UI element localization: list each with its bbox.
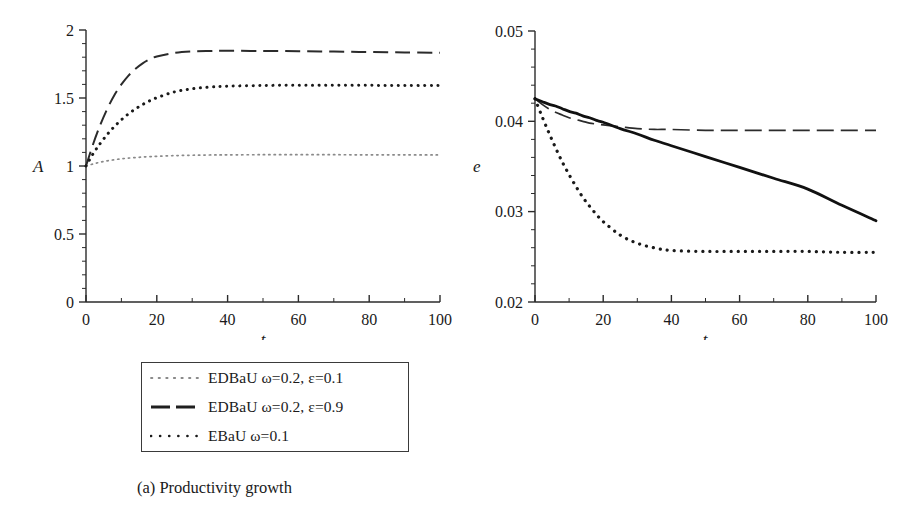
- x-axis-label: t: [261, 330, 267, 340]
- y-tick-label: 2: [66, 22, 74, 39]
- y-tick-label: 0.04: [495, 113, 523, 130]
- y-tick-label: 1: [66, 158, 74, 175]
- x-tick-label: 80: [361, 311, 377, 328]
- legend-item: EDBaU ω=0.2, ε=0.9: [142, 392, 408, 421]
- x-tick-label: 40: [663, 311, 679, 328]
- y-tick-label: 1.5: [54, 90, 74, 107]
- legend-label: EDBaU ω=0.2, ε=0.9: [208, 398, 343, 416]
- legend-label: EBaU ω=0.1: [208, 427, 289, 445]
- series-group: [86, 51, 440, 166]
- legend-productivity-growth: EDBaU ω=0.2, ε=0.1 EDBaU ω=0.2, ε=0.9 EB…: [141, 362, 409, 452]
- chart-productivity-growth: 2 1.5 1 0.5 0 0 20 40 60 80 100 A t: [0, 0, 457, 340]
- y-tick-label: 0.05: [495, 23, 523, 40]
- panel-caption-a: (a) Productivity growth: [137, 478, 292, 498]
- x-tick-label: 100: [864, 311, 888, 328]
- x-tick-label: 100: [428, 311, 452, 328]
- legend-swatch-dashed: [150, 401, 202, 413]
- legend-label: EDBaU ω=0.2, ε=0.1: [208, 369, 343, 387]
- y-tick-label: 0.02: [495, 294, 523, 311]
- y-tick-label: 0.03: [495, 203, 523, 220]
- y-axis-major-ticks: [528, 31, 535, 302]
- series-line-ebau: [535, 99, 876, 221]
- series-line-ebau: [86, 85, 440, 166]
- y-axis-label: A: [32, 157, 44, 176]
- x-tick-label: 60: [732, 311, 748, 328]
- legend-swatch-dotted-bold: [150, 430, 202, 442]
- x-tick-label: 40: [220, 311, 236, 328]
- series-line-edbau-eps09: [535, 99, 876, 131]
- panel-productivity-growth: 2 1.5 1 0.5 0 0 20 40 60 80 100 A t EDBa…: [0, 0, 457, 532]
- panel-emission-intensity: 0.05 0.04 0.03 0.02 0 20 40 60 80 100 e …: [458, 0, 915, 532]
- legend-item: EDBaU ω=0.2, ε=0.1: [142, 363, 408, 392]
- chart-emission-intensity: 0.05 0.04 0.03 0.02 0 20 40 60 80 100 e …: [458, 0, 915, 340]
- x-tick-label: 80: [800, 311, 816, 328]
- series-group: [535, 99, 876, 253]
- x-axis-label: t: [703, 330, 709, 340]
- series-line-edbau-eps09: [86, 51, 440, 166]
- x-tick-label: 60: [290, 311, 306, 328]
- x-tick-label: 0: [531, 311, 539, 328]
- x-tick-label: 20: [149, 311, 165, 328]
- x-tick-label: 20: [595, 311, 611, 328]
- series-line-edbau-eps01: [86, 155, 440, 166]
- x-tick-label: 0: [82, 311, 90, 328]
- legend-swatch-dotted-light: [150, 372, 202, 384]
- y-tick-label: 0: [66, 294, 74, 311]
- legend-item: EBaU ω=0.1: [142, 422, 408, 451]
- y-tick-label: 0.5: [54, 226, 74, 243]
- y-axis-label: e: [473, 157, 481, 176]
